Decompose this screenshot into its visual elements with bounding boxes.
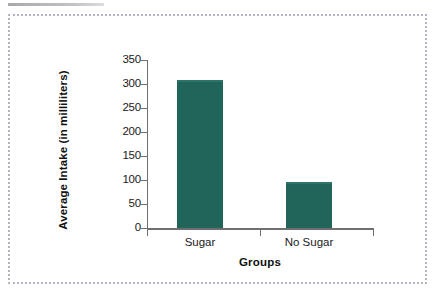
y-tick-label-300: 300 xyxy=(109,78,141,90)
y-tick-label-350: 350 xyxy=(109,54,141,66)
y-tick-label-0: 0 xyxy=(109,222,141,234)
chart-figure-frame: Average Intake (in milliliters) 350 300 … xyxy=(8,14,427,284)
bar-sugar-top-edge xyxy=(177,80,223,82)
x-tick-mark-middle xyxy=(260,230,261,236)
y-tick-label-150: 150 xyxy=(109,150,141,162)
bar-sugar xyxy=(177,80,223,228)
scan-artifact-line xyxy=(8,3,104,6)
y-axis-title: Average Intake (in milliliters) xyxy=(57,58,69,243)
y-tick-label-100: 100 xyxy=(109,174,141,186)
y-tick-label-250: 250 xyxy=(109,102,141,114)
y-axis-tick-labels: 350 300 250 200 150 100 50 0 xyxy=(105,16,141,295)
x-tick-mark-left xyxy=(147,230,148,236)
bar-no-sugar-top-edge xyxy=(286,182,332,184)
y-tick-label-50: 50 xyxy=(109,198,141,210)
y-tick-label-200: 200 xyxy=(109,126,141,138)
y-axis-line xyxy=(147,60,148,229)
bar-no-sugar xyxy=(286,182,332,228)
x-category-label-sugar: Sugar xyxy=(165,236,235,249)
x-axis-title: Groups xyxy=(147,256,373,268)
x-tick-mark-right xyxy=(373,230,374,236)
x-category-label-no-sugar: No Sugar xyxy=(274,236,344,249)
